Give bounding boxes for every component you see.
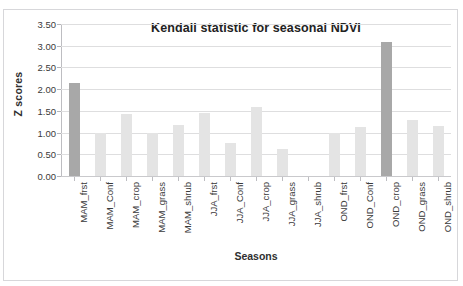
bar-slot [269,24,295,176]
x-label-slot: OND_Conf [347,182,373,244]
x-tick-slot [399,177,425,181]
x-tick-slot [269,177,295,181]
bar [147,133,158,176]
bar [277,149,288,176]
x-axis-tick-mark [386,177,387,181]
chart-container: Kendall statistic for seasonal NDVI Z sc… [3,9,458,281]
x-label-slot: MAM_shrub [165,182,191,244]
x-tick-slot [139,177,165,181]
x-tick-slot [321,177,347,181]
clipped-header-text [0,0,463,8]
y-axis-tick-label: 3.50 [20,19,56,30]
x-tick-slot [87,177,113,181]
x-tick-slot [113,177,139,181]
x-label-slot: JJA_crop [243,182,269,244]
x-axis-tick-mark [126,177,127,181]
x-tick-slot [243,177,269,181]
bar-slot [321,24,347,176]
x-axis-tick-labels: MAM_frstMAM_ConfMAM_cropMAM_grassMAM_shr… [61,182,451,244]
x-tick-slot [295,177,321,181]
x-label-slot: OND_shrub [425,182,451,244]
y-axis-tick-label: 2.50 [20,62,56,73]
bar-slot [87,24,113,176]
x-label-slot: MAM_Conf [87,182,113,244]
bar-slot [347,24,373,176]
bar [69,83,80,176]
bar-slot [61,24,87,176]
x-axis-tick-mark [438,177,439,181]
x-label-slot: OND_frst [321,182,347,244]
x-axis-tick-mark [204,177,205,181]
x-tick-slot [347,177,373,181]
y-axis-tick-label: 1.00 [20,127,56,138]
bar-slot [217,24,243,176]
bar [407,120,418,176]
y-axis-tick-label: 0.50 [20,149,56,160]
plot-area [61,24,451,176]
bar-slot [425,24,451,176]
x-axis-tick-mark [282,177,283,181]
bar [355,127,366,177]
bar [225,143,236,176]
bar-slot [113,24,139,176]
x-label-slot: MAM_grass [139,182,165,244]
bar [433,126,444,176]
x-axis-tick-mark [152,177,153,181]
x-axis-tick-mark [412,177,413,181]
x-axis-tick-mark [178,177,179,181]
x-label-slot: MAM_frst [61,182,87,244]
bar-slot [191,24,217,176]
x-axis-tick-mark [360,177,361,181]
x-axis-tick-mark [256,177,257,181]
bar-slot [399,24,425,176]
x-label-slot: JJA_shrub [295,182,321,244]
bar [251,107,262,176]
bar [199,113,210,176]
x-axis-tick-mark [308,177,309,181]
y-axis-tick-label: 1.50 [20,105,56,116]
bar-slot [165,24,191,176]
x-axis-tick-mark [230,177,231,181]
bar-slot [243,24,269,176]
x-tick-slot [165,177,191,181]
y-axis-tick-label: 0.00 [20,171,56,182]
x-label-slot: JJA_Conf [217,182,243,244]
x-tick-slot [425,177,451,181]
x-axis-tick-marks [61,177,451,181]
x-axis-title: Seasons [61,250,451,262]
bar [329,133,340,176]
x-label-slot: JJA_frst [191,182,217,244]
x-tick-slot [217,177,243,181]
x-tick-slot [373,177,399,181]
bar [95,133,106,176]
y-axis-tick-label: 3.00 [20,40,56,51]
x-label-slot: OND_grass [399,182,425,244]
x-axis-tick-mark [100,177,101,181]
bar-slot [139,24,165,176]
x-label-slot: MAM_crop [113,182,139,244]
x-tick-slot [61,177,87,181]
bar [173,125,184,176]
x-label-slot: JJA_grass [269,182,295,244]
bar-series [61,24,451,176]
x-label-slot: OND_crop [373,182,399,244]
x-tick-slot [191,177,217,181]
x-axis-tick-mark [334,177,335,181]
x-axis-tick-label: OND_shrub [442,182,453,232]
bar-slot [373,24,399,176]
bar [121,114,132,176]
y-axis-tick-label: 2.00 [20,84,56,95]
bar-slot [295,24,321,176]
bar [381,42,392,176]
x-axis-tick-mark [74,177,75,181]
